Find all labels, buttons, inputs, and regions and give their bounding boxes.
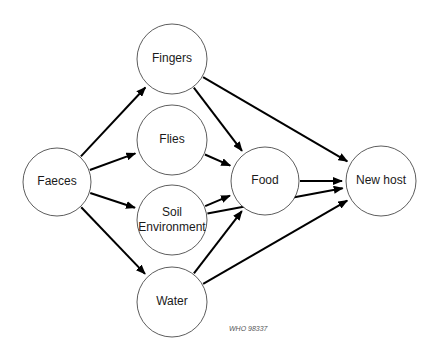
arrow-soil-to-food: [205, 196, 230, 206]
node-label: Faeces: [37, 174, 76, 188]
node-newhost: New host: [346, 146, 416, 216]
node-label: Environment: [138, 220, 206, 234]
arrow-faeces-to-flies: [90, 153, 135, 170]
transmission-diagram: FaecesFingersFliesSoilEnvironmentWaterFo…: [0, 0, 436, 357]
arrow-faeces-to-soil: [90, 193, 135, 208]
node-faeces: Faeces: [23, 148, 91, 216]
node-fingers: Fingers: [137, 24, 207, 94]
node-water: Water: [137, 267, 207, 337]
node-label: New host: [356, 173, 407, 187]
node-label: Fingers: [152, 51, 192, 65]
node-flies: Flies: [137, 105, 207, 175]
arrow-faeces-to-fingers: [81, 87, 145, 156]
figure-credit: WHO 98337: [229, 325, 269, 332]
nodes: FaecesFingersFliesSoilEnvironmentWaterFo…: [23, 24, 416, 337]
arrow-faeces-to-water: [81, 207, 145, 274]
edges: [81, 77, 347, 284]
node-label: Soil: [162, 205, 182, 219]
node-soil: SoilEnvironment: [137, 185, 207, 255]
node-label: Water: [156, 294, 188, 308]
arrow-flies-to-food: [205, 155, 230, 166]
node-food: Food: [231, 147, 299, 215]
node-label: Flies: [159, 132, 184, 146]
node-label: Food: [251, 173, 278, 187]
